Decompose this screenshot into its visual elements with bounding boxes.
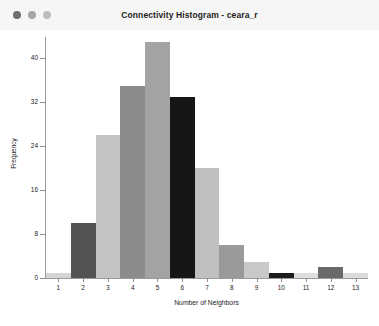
y-axis-tick-label: 40 bbox=[16, 54, 38, 61]
y-axis-title: Frequency bbox=[10, 119, 17, 189]
x-axis-tick-label: 9 bbox=[245, 284, 269, 291]
histogram-plot: Frequency Number of Neighbors 0816243240… bbox=[0, 30, 379, 326]
x-axis-tick bbox=[83, 278, 84, 282]
x-axis-tick bbox=[133, 278, 134, 282]
x-axis-tick bbox=[306, 278, 307, 282]
x-axis-tick-label: 2 bbox=[71, 284, 95, 291]
x-axis-tick bbox=[331, 278, 332, 282]
y-axis-tick-label: 16 bbox=[16, 186, 38, 193]
x-axis-tick bbox=[182, 278, 183, 282]
x-axis-tick-label: 11 bbox=[294, 284, 318, 291]
y-axis-tick-label: 32 bbox=[16, 98, 38, 105]
histogram-bar bbox=[145, 42, 170, 279]
x-axis-tick-label: 8 bbox=[220, 284, 244, 291]
window-title: Connectivity Histogram - ceara_r bbox=[0, 0, 379, 30]
histogram-bar bbox=[96, 135, 121, 278]
y-axis-tick-label: 0 bbox=[16, 274, 38, 281]
histogram-bar bbox=[195, 168, 220, 278]
x-axis-tick-label: 12 bbox=[319, 284, 343, 291]
y-axis-tick bbox=[40, 146, 45, 147]
y-axis-tick-label: 8 bbox=[16, 230, 38, 237]
x-axis-tick-label: 10 bbox=[269, 284, 293, 291]
histogram-bar bbox=[318, 267, 343, 278]
histogram-bar bbox=[170, 97, 195, 279]
histogram-bar bbox=[219, 245, 244, 278]
y-axis-tick-label: 24 bbox=[16, 142, 38, 149]
x-axis-tick bbox=[257, 278, 258, 282]
x-axis-tick bbox=[157, 278, 158, 282]
histogram-bar bbox=[244, 262, 269, 279]
y-axis-tick bbox=[40, 102, 45, 103]
x-axis-tick bbox=[356, 278, 357, 282]
y-axis-line bbox=[45, 37, 46, 278]
y-axis-tick bbox=[40, 234, 45, 235]
x-axis-tick-label: 4 bbox=[121, 284, 145, 291]
x-axis-tick-label: 5 bbox=[145, 284, 169, 291]
x-axis-tick bbox=[281, 278, 282, 282]
x-axis-tick bbox=[58, 278, 59, 282]
x-axis-tick bbox=[207, 278, 208, 282]
x-axis-tick bbox=[232, 278, 233, 282]
x-axis-title: Number of Neighbors bbox=[45, 299, 368, 306]
x-axis-tick-label: 3 bbox=[96, 284, 120, 291]
x-axis-tick-label: 13 bbox=[344, 284, 368, 291]
app-window: Connectivity Histogram - ceara_r Frequen… bbox=[0, 0, 379, 326]
histogram-bar bbox=[120, 86, 145, 279]
y-axis-tick bbox=[40, 278, 45, 279]
window-titlebar: Connectivity Histogram - ceara_r bbox=[0, 0, 379, 31]
y-axis-tick bbox=[40, 58, 45, 59]
y-axis-tick bbox=[40, 190, 45, 191]
x-axis-tick-label: 7 bbox=[195, 284, 219, 291]
x-axis-tick-label: 6 bbox=[170, 284, 194, 291]
histogram-bar bbox=[71, 223, 96, 278]
x-axis-tick-label: 1 bbox=[46, 284, 70, 291]
x-axis-tick bbox=[108, 278, 109, 282]
bars-layer bbox=[0, 30, 379, 326]
